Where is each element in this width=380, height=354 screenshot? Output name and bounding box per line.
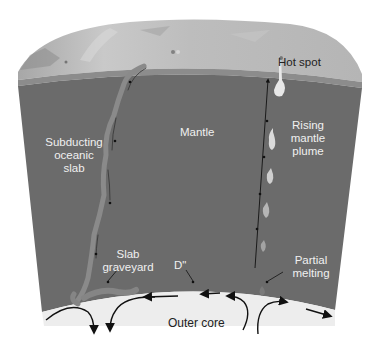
label-slab-graveyard: Slab graveyard <box>98 248 158 274</box>
label-rising-mantle-plume: Rising mantle plume <box>283 119 333 158</box>
label-outer-core: Outer core <box>168 317 225 330</box>
label-subducting-slab: Subducting oceanic slab <box>40 136 108 175</box>
label-partial-melting: Partial melting <box>284 254 338 280</box>
diagram-canvas: Hot spot Mantle Subducting oceanic slab … <box>0 0 380 354</box>
label-mantle: Mantle <box>180 126 215 139</box>
label-d-double-prime: D" <box>174 259 186 272</box>
cross-section-graphic <box>0 0 380 354</box>
label-hot-spot: Hot spot <box>278 56 321 69</box>
